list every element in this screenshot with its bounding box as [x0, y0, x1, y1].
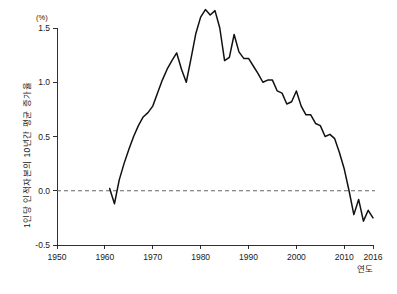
x-tick-label: 1990 [239, 252, 258, 262]
y-tick-label: 1.0 [38, 77, 50, 87]
x-tick-label: 2010 [335, 252, 354, 262]
x-tick-label: 1970 [143, 252, 162, 262]
y-tick-label: 1.5 [38, 23, 50, 33]
y-axis-unit-label: (%) [36, 13, 48, 22]
chart-figure: (%) 1인당 인적자본의 10년간 평균 증가율 1.51.00.50.0-0… [0, 0, 397, 294]
y-axis-title: 1인당 인적자본의 10년간 평균 증가율 [22, 82, 32, 228]
series-line-human-capital-growth [110, 10, 373, 222]
y-axis-ticks: 1.51.00.50.0-0.5 [35, 23, 57, 250]
x-tick-label: 1960 [95, 252, 114, 262]
x-axis-title: 연도 [357, 264, 373, 274]
y-tick-label: 0.5 [38, 132, 50, 142]
y-tick-label: -0.5 [35, 240, 50, 250]
x-axis-ticks: 19501960197019801990200020102016 [48, 245, 383, 262]
line-chart-canvas: (%) 1인당 인적자본의 10년간 평균 증가율 1.51.00.50.0-0… [0, 0, 397, 294]
x-tick-label: 2016 [364, 252, 383, 262]
x-tick-label: 1980 [191, 252, 210, 262]
y-tick-label: 0.0 [38, 186, 50, 196]
x-tick-label: 1950 [48, 252, 67, 262]
x-tick-label: 2000 [287, 252, 306, 262]
